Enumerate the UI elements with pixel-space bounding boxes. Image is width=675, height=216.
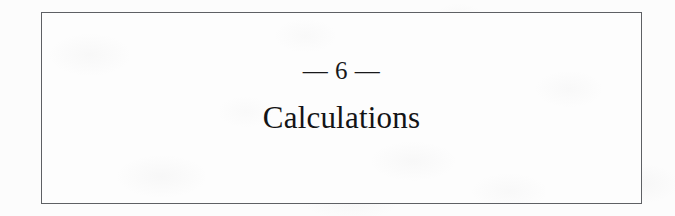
chapter-title: Calculations xyxy=(263,102,420,135)
chapter-number-ornament: — 6 — xyxy=(303,58,381,83)
chapter-opener-frame: — 6 — Calculations xyxy=(41,12,642,204)
scanned-page: — 6 — Calculations xyxy=(0,0,675,216)
